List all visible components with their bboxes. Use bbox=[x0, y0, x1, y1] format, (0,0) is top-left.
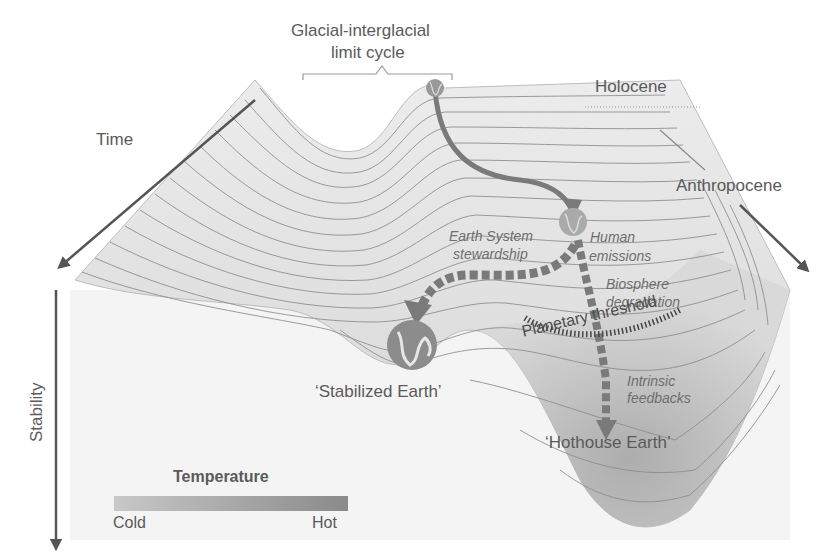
biosphere-degradation-label-line1: Biosphere bbox=[606, 276, 669, 292]
intrinsic-feedbacks-label-line1: Intrinsic bbox=[627, 373, 675, 389]
glacial-cycle-label-line1: Glacial-interglacial bbox=[291, 21, 430, 41]
legend-hot-label: Hot bbox=[312, 514, 337, 532]
glacial-cycle-bracket bbox=[303, 66, 452, 80]
anthropocene-label: Anthropocene bbox=[676, 176, 782, 196]
globe-icon bbox=[387, 320, 437, 370]
temperature-legend-bar bbox=[114, 496, 348, 511]
intrinsic-feedbacks-label-line2: feedbacks bbox=[627, 390, 691, 406]
earth-system-stewardship-label-line1: Earth System bbox=[449, 228, 533, 244]
stabilized-earth-label: ‘Stabilized Earth’ bbox=[315, 382, 442, 402]
hothouse-earth-label: ‘Hothouse Earth’ bbox=[545, 433, 671, 453]
human-emissions-label-line2: emissions bbox=[589, 248, 651, 264]
temperature-legend-title: Temperature bbox=[173, 468, 269, 486]
earth-system-stewardship-label-line2: stewardship bbox=[453, 246, 528, 262]
stability-label: Stability bbox=[27, 382, 47, 442]
globe-icon bbox=[559, 208, 587, 236]
stability-landscape-diagram bbox=[0, 0, 840, 560]
holocene-label: Holocene bbox=[595, 77, 667, 97]
globe-icon bbox=[426, 79, 444, 97]
time-label: Time bbox=[96, 130, 133, 150]
human-emissions-label-line1: Human bbox=[590, 229, 635, 245]
glacial-cycle-label-line2: limit cycle bbox=[331, 43, 405, 63]
legend-cold-label: Cold bbox=[113, 514, 146, 532]
